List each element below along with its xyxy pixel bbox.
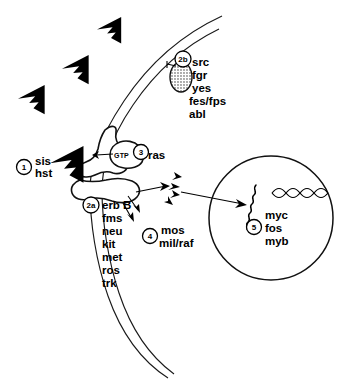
gene-label-abl: abl: [189, 108, 206, 120]
dna-double-helix-icon: [272, 189, 328, 198]
gene-label-src: src: [192, 56, 210, 68]
burst-arrowhead-1: [172, 172, 182, 180]
gene-label-myb: myb: [265, 235, 289, 247]
gene-list-step-4: mos mil/raf: [159, 224, 194, 249]
step-marker-4-label: 4: [148, 232, 153, 241]
gene-label-myc: myc: [265, 209, 289, 221]
gene-list-step-5: myc fos myb: [265, 209, 289, 247]
gene-label-fgr: fgr: [192, 69, 208, 81]
gene-list-step-2b: src fgr yes fes/fps abl: [189, 56, 226, 120]
diagram-canvas: GTP: [0, 0, 340, 385]
gene-label-hst: hst: [35, 167, 52, 179]
gene-label-ras: ras: [148, 149, 165, 161]
gene-label-trk: trk: [102, 277, 117, 289]
bound-ligand-icon: [50, 146, 83, 183]
free-ligand-group: [18, 17, 121, 114]
gene-label-ros: ros: [102, 264, 120, 276]
gene-label-met: met: [102, 251, 123, 263]
ligand-icon-3: [97, 17, 121, 44]
gene-label-milraf: mil/raf: [159, 237, 194, 249]
step-marker-2a-label: 2a: [87, 201, 96, 210]
burst-arrowhead-2: [168, 183, 180, 190]
signal-arrow-group: [123, 172, 247, 222]
ligand-icon-2: [62, 55, 89, 84]
step-marker-1-label: 1: [22, 163, 27, 172]
gtp-label: GTP: [114, 152, 129, 159]
burst-arrowhead-3: [170, 190, 180, 198]
ligand-icon-1: [18, 85, 45, 114]
gene-label-fesfps: fes/fps: [189, 95, 226, 107]
gene-label-fos: fos: [265, 222, 282, 234]
oncogene-pathway-figure: GTP: [0, 0, 340, 385]
gene-label-sis: sis: [35, 155, 51, 167]
gene-list-step-2a: erb B fms neu kit met ros trk: [102, 199, 131, 289]
gene-label-yes: yes: [192, 82, 211, 94]
step-marker-3-label: 3: [139, 148, 144, 157]
gene-label-kit: kit: [102, 238, 116, 250]
step-marker-5-label: 5: [252, 223, 257, 232]
gene-list-step-1: sis hst: [35, 155, 52, 179]
gene-label-erbB: erb B: [102, 199, 131, 211]
gene-label-mos: mos: [161, 224, 185, 236]
step-marker-2b-label: 2b: [178, 55, 187, 64]
gene-label-fms: fms: [102, 212, 122, 224]
gene-label-neu: neu: [102, 225, 122, 237]
